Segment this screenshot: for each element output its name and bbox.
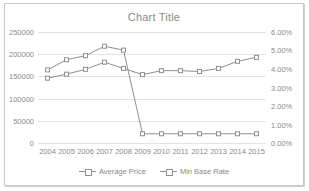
legend-item[interactable]: Min Base Rate — [160, 167, 229, 176]
data-point-marker — [179, 132, 183, 136]
chart-title: Chart Title — [5, 11, 303, 23]
right-axis-tick-label: 1.00% — [271, 120, 292, 129]
right-axis-tick-label: 2.00% — [271, 101, 292, 110]
data-point-marker — [141, 73, 145, 77]
data-point-marker — [65, 72, 69, 76]
data-point-marker — [103, 60, 107, 64]
x-axis-tick-label: 2015 — [248, 147, 265, 156]
x-axis-tick-label: 2012 — [191, 147, 208, 156]
left-axis-tick-label: 250000 — [9, 28, 34, 37]
right-axis-tick-label: 3.00% — [271, 83, 292, 92]
x-axis-tick-label: 2005 — [58, 147, 75, 156]
data-point-marker — [65, 58, 69, 62]
left-axis-tick-label: 0 — [30, 139, 34, 148]
data-point-marker — [46, 76, 50, 80]
data-point-marker — [84, 54, 88, 58]
gridline — [38, 143, 266, 144]
right-axis-tick-label: 0.00% — [271, 139, 292, 148]
data-point-marker — [160, 69, 164, 73]
legend-label: Average Price — [99, 167, 146, 176]
data-point-marker — [198, 132, 202, 136]
plot-area: 050000100000150000200000250000 0.00%1.00… — [38, 32, 266, 143]
right-axis-tick-label: 4.00% — [271, 64, 292, 73]
legend-marker-icon — [160, 168, 177, 175]
x-axis-tick-label: 2014 — [229, 147, 246, 156]
data-point-marker — [217, 66, 221, 70]
series-line — [48, 57, 257, 78]
chart-legend: Average PriceMin Base Rate — [5, 167, 303, 176]
chart-container: Chart Title 0500001000001500002000002500… — [4, 3, 304, 186]
data-point-marker — [84, 67, 88, 71]
x-axis-tick-label: 2009 — [134, 147, 151, 156]
series-line — [48, 46, 257, 134]
x-axis-tick-label: 2011 — [172, 147, 188, 156]
data-point-marker — [236, 59, 240, 63]
data-point-marker — [46, 68, 50, 72]
left-axis-tick-label: 200000 — [9, 50, 34, 59]
series-lines — [38, 32, 266, 143]
x-axis-tick-label: 2013 — [210, 147, 227, 156]
data-point-marker — [255, 132, 259, 136]
data-point-marker — [141, 132, 145, 136]
left-axis-tick-label: 150000 — [9, 72, 34, 81]
legend-item[interactable]: Average Price — [79, 167, 146, 176]
right-axis-tick-label: 5.00% — [271, 46, 292, 55]
legend-marker-icon — [79, 168, 96, 175]
data-point-marker — [122, 66, 126, 70]
data-point-marker — [160, 132, 164, 136]
right-axis-tick-label: 6.00% — [271, 28, 292, 37]
data-point-marker — [179, 69, 183, 73]
data-point-marker — [198, 70, 202, 74]
legend-label: Min Base Rate — [180, 167, 229, 176]
data-point-marker — [103, 44, 107, 48]
data-point-marker — [236, 132, 240, 136]
x-axis-tick-label: 2007 — [96, 147, 113, 156]
left-axis-tick-label: 50000 — [13, 116, 34, 125]
x-axis-tick-label: 2006 — [77, 147, 94, 156]
left-axis-tick-label: 100000 — [9, 94, 34, 103]
data-point-marker — [255, 55, 259, 59]
x-axis-tick-label: 2010 — [153, 147, 170, 156]
x-axis-tick-label: 2008 — [115, 147, 132, 156]
x-axis-tick-label: 2004 — [39, 147, 56, 156]
data-point-marker — [217, 132, 221, 136]
data-point-marker — [122, 48, 126, 52]
